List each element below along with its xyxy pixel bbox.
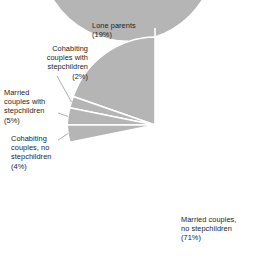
pie-label-married-couples-with-stepchildren: Married couples with stepchildren (5%) [4,88,72,125]
pie-label-cohabiting-couples-no-stepchildren: Cohabiting couples, no stepchildren (4%) [11,134,73,171]
pie-label-lone-parents: Lone parents (19%) [92,21,136,39]
pie-label-cohabiting-couples-with-stepchildren: Cohabiting couples with stepchildren (2%… [22,44,88,81]
pie-chart: Lone parents (19%) Cohabiting couples wi… [0,0,256,259]
pie-label-married-couples-no-stepchildren: Married couples, no stepchildren (71%) [181,215,255,243]
pie-slice-cohabiting-couples-no-stepchildren [67,125,155,142]
